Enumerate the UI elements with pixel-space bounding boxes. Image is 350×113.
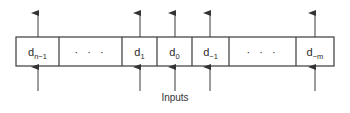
inputs-caption: Inputs xyxy=(150,92,200,103)
cell-d-minus-1: d−1 xyxy=(192,42,229,62)
output-arrows xyxy=(38,13,315,37)
cell-ellipsis-left: · · · xyxy=(59,42,122,62)
cell-d-minus-m: d−m xyxy=(296,42,334,62)
cell-d-0: d0 xyxy=(157,42,192,62)
input-arrows xyxy=(38,67,315,91)
cell-ellipsis-right: · · · xyxy=(229,42,296,62)
cell-d-n-minus-1: dn−1 xyxy=(16,42,59,62)
cell-d-1: d1 xyxy=(122,42,157,62)
